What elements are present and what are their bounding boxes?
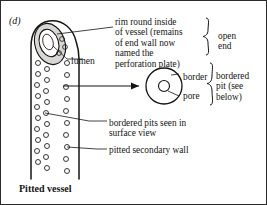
label-lumen: lumen — [71, 56, 95, 67]
detail-pointer-arrow — [63, 83, 139, 90]
leader-surface-view — [45, 113, 107, 121]
panel-letter: (d) — [9, 15, 21, 26]
figure-caption: Pitted vessel — [19, 183, 72, 194]
bordered-pit-surface-view — [146, 68, 182, 104]
label-pore: pore — [183, 91, 200, 101]
leader-secondary-wall — [67, 147, 107, 149]
figure-panel: (d) rim round inside of vessel (remains … — [0, 0, 267, 205]
label-open-end: open end — [218, 31, 236, 52]
pitted-vessel-drawing — [30, 20, 79, 179]
label-bordered-pits-surface-view: bordered pits seen in surface view — [109, 118, 186, 139]
brace-open-end — [203, 18, 209, 55]
bordered-pit-group — [35, 61, 70, 174]
leader-rim — [57, 27, 113, 34]
label-bordered-pit: bordered pit (see below) — [216, 71, 249, 102]
label-pitted-secondary-wall: pitted secondary wall — [109, 145, 189, 155]
label-border: border — [183, 72, 207, 82]
brace-bordered-pit — [207, 63, 213, 105]
pit-pore-circle — [159, 81, 170, 92]
label-rim-perforation-plate: rim round inside of vessel (remains of e… — [115, 17, 183, 69]
